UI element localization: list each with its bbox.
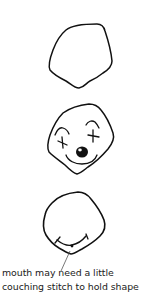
step-3-couched-mouth bbox=[44, 192, 105, 271]
step-2-clown-face bbox=[48, 104, 114, 174]
caption-line-2: couching stitch to hold shape bbox=[2, 280, 154, 294]
head-outline bbox=[49, 24, 112, 88]
diagram-canvas: mouth may need a little couching stitch … bbox=[0, 0, 154, 304]
step-1-head bbox=[49, 24, 112, 88]
nose-icon bbox=[76, 147, 88, 158]
mouth-right-tick bbox=[86, 234, 88, 239]
diagram-drawing bbox=[0, 0, 154, 304]
right-brow-icon bbox=[86, 121, 99, 128]
couching-point-icon bbox=[71, 245, 74, 248]
mouth-stitch-icon bbox=[57, 236, 86, 245]
right-x-eye-icon bbox=[88, 130, 99, 142]
left-brow-icon bbox=[55, 128, 69, 135]
caption-line-1: mouth may need a little bbox=[2, 266, 154, 280]
caption: mouth may need a little couching stitch … bbox=[2, 266, 154, 293]
left-x-eye-icon bbox=[58, 137, 67, 148]
